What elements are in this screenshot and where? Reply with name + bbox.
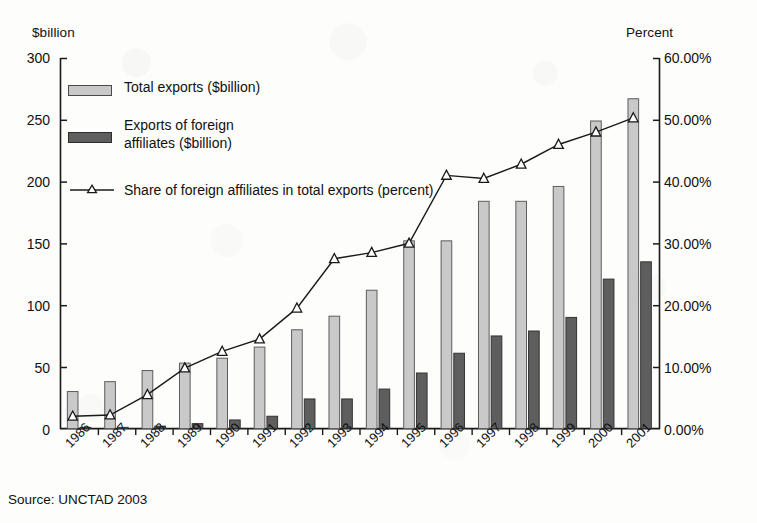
bar-affiliate-2001 [641,262,652,429]
chart-figure: $billion Percent 300 250 200 150 100 50 … [0,0,757,523]
bar-total-1987 [105,382,116,429]
bar-total-1990 [217,358,228,428]
x-axis-ticks [98,429,621,436]
bar-total-1992 [292,330,303,429]
legend-marker-share-line [70,185,114,192]
source-note: Source: UNCTAD 2003 [8,492,147,507]
share-marker-1998 [516,159,526,168]
bar-total-1993 [329,316,340,428]
share-line-series [68,113,638,420]
bar-total-1997 [478,201,489,428]
bar-total-1999 [553,186,564,428]
bar-affiliate-1998 [529,331,540,429]
bar-total-1995 [404,241,415,429]
share-marker-1991 [255,334,265,343]
share-marker-1996 [442,170,452,179]
bar-total-1994 [366,290,377,428]
bar-affiliate-2000 [603,279,614,428]
bar-total-1998 [516,201,527,428]
bar-total-1989 [179,363,190,428]
bar-total-1991 [254,347,265,429]
bar-affiliate-1999 [566,317,577,428]
bar-affiliate-1997 [491,336,502,429]
bar-total-1988 [142,371,153,429]
bar-total-2001 [628,99,639,429]
share-line-path [73,118,634,416]
bar-total-1996 [441,241,452,429]
bar-total-2000 [591,121,602,429]
bar-affiliate-1996 [454,353,465,428]
